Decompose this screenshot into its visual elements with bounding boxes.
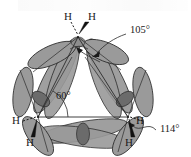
hbond-top-left [71, 22, 78, 35]
carbon-lower-left-dot [37, 116, 39, 118]
atom-label-h-left-upper: H [12, 115, 20, 126]
hbond-top-left-dash [71, 22, 78, 35]
atom-label-h-top-right: H [88, 11, 96, 22]
ch-lobe-left-upper [10, 66, 37, 118]
angle-label-60: 60° [56, 91, 71, 102]
hbond-top-right-wedge [79, 22, 89, 34]
carbon-lower-right-dot [127, 116, 129, 118]
carbon-apex-dot [77, 36, 79, 38]
atom-label-h-top-left: H [64, 11, 72, 22]
atom-label-h-right-upper: H [136, 115, 144, 126]
atom-label-h-left-lower: H [26, 137, 34, 148]
hbond-top-right [79, 22, 89, 34]
angle-label-114: 114° [160, 124, 180, 135]
orbital-diagram-figure: H H H H H H 105° 60° 114° [0, 0, 191, 157]
overlap-lens-bottom [77, 123, 90, 145]
angle-label-105: 105° [130, 25, 150, 36]
ch-lobe-right-upper [130, 66, 157, 118]
atom-label-h-right-lower: H [125, 137, 133, 148]
